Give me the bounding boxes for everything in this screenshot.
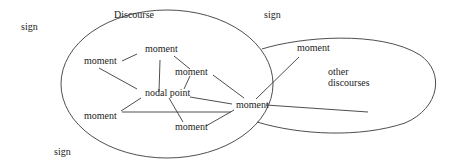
discourse-ellipse <box>61 10 273 158</box>
discourse-title: Discourse <box>114 9 154 20</box>
nodal-point-label: nodal point <box>145 87 190 98</box>
edge-nodal-leftbottom <box>121 98 141 111</box>
sign-label-top-left: sign <box>21 21 38 32</box>
moment-left-bottom: moment <box>84 110 117 121</box>
sign-label-top-right: sign <box>264 9 281 20</box>
edge-lefttop-nodal <box>99 68 137 89</box>
sign-label-bottom-left: sign <box>54 146 71 157</box>
moment-left-top: moment <box>84 55 117 66</box>
edge-hub-outside <box>266 105 368 112</box>
moment-hub: moment <box>236 99 269 110</box>
moment-other-discourse: moment <box>297 42 330 53</box>
edge-middle-hub <box>213 75 244 98</box>
edge-hub-other <box>256 57 299 99</box>
other-discourses-label-line1: other <box>328 66 349 77</box>
diagram-canvas <box>0 0 457 167</box>
edge-nodal-bottom <box>169 98 183 122</box>
discourse-diagram: Discourse sign sign sign moment moment m… <box>0 0 457 167</box>
other-discourses-label-line2: discourses <box>328 77 370 88</box>
edge-lefttop-top <box>122 54 137 61</box>
moment-top: moment <box>145 43 178 54</box>
moment-middle: moment <box>175 66 208 77</box>
edge-nodal-hub <box>190 97 232 104</box>
moment-bottom: moment <box>175 121 208 132</box>
